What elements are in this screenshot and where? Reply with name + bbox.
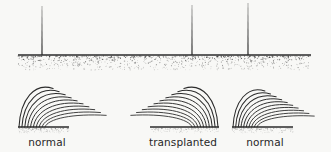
bristle-polarity-figure: normaltransplantednormal xyxy=(0,0,331,152)
figure-background xyxy=(0,0,331,152)
figure-canvas xyxy=(0,0,331,152)
